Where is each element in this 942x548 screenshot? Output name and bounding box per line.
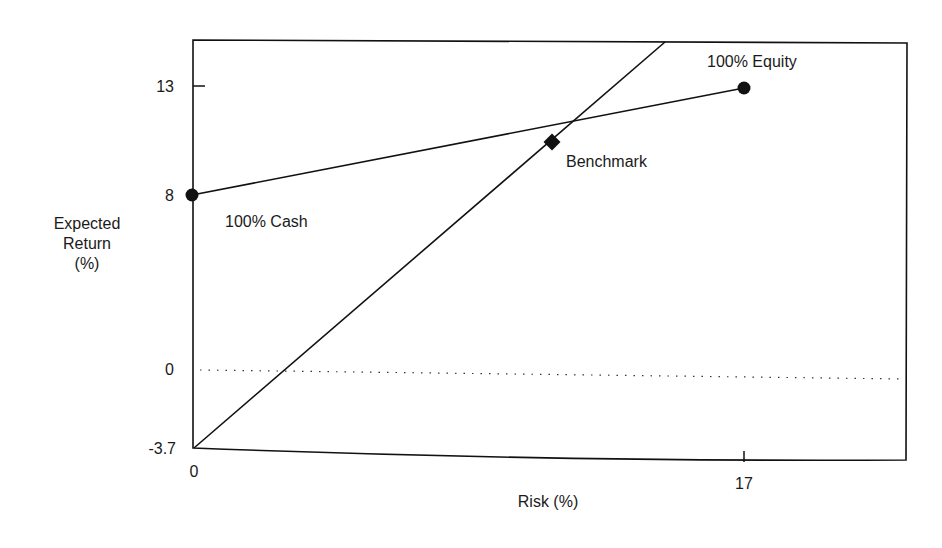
cash-point-marker: [186, 189, 199, 202]
equity-label: 100% Equity: [707, 53, 797, 70]
x-tick-label-17: 17: [735, 475, 753, 492]
benchmark-diamond-marker: [544, 134, 561, 151]
equity-point-marker: [738, 82, 751, 95]
y-tick-label-13: 13: [156, 78, 174, 95]
benchmark-label: Benchmark: [566, 153, 648, 170]
x-tick-label-0: 0: [190, 463, 199, 480]
benchmark-line: [194, 42, 665, 448]
y-axis-title-line2: Return: [63, 235, 111, 252]
plot-frame: [193, 40, 907, 460]
y-axis-title-line1: Expected: [54, 215, 121, 232]
y-tick-label-0: 0: [165, 361, 174, 378]
zero-reference-line: [200, 370, 904, 379]
x-axis-title: Risk (%): [518, 493, 578, 510]
cash-label: 100% Cash: [225, 213, 308, 230]
chart: 100% Equity Benchmark 100% Cash 13 8 0 -…: [0, 0, 942, 548]
cash-equity-line: [192, 88, 744, 195]
y-tick-label-8: 8: [165, 187, 174, 204]
y-axis-title-line3: (%): [75, 255, 100, 272]
y-tick-label-neg: -3.7: [148, 440, 176, 457]
